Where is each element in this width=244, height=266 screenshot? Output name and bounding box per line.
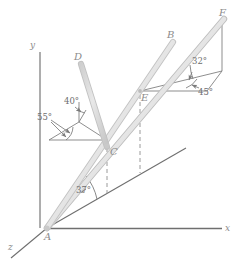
- angle-label-40: 40°: [64, 97, 79, 106]
- point-label-D: D: [74, 52, 82, 62]
- point-label-B: B: [167, 30, 174, 40]
- point-label-E: E: [141, 93, 148, 103]
- projection-box-E: [140, 20, 222, 91]
- frame-diagram-figure: A B C D E F y x z 37° 40° 55° 32° 45°: [0, 0, 244, 266]
- point-label-C: C: [110, 147, 118, 157]
- point-label-A: A: [44, 232, 51, 242]
- angle-label-32: 32°: [192, 57, 207, 66]
- incline-line-from-A: [47, 148, 186, 228]
- angle-label-45: 45°: [198, 88, 213, 97]
- angle-label-55: 55°: [37, 113, 52, 122]
- z-axis-label: z: [8, 243, 13, 252]
- point-label-F: F: [219, 8, 226, 18]
- member-AB: [47, 42, 173, 228]
- x-axis-label: x: [225, 224, 230, 233]
- member-CD: [81, 64, 107, 147]
- diagram-canvas: [0, 0, 244, 266]
- angle-label-37: 37°: [76, 186, 91, 195]
- z-axis-line: [11, 228, 47, 258]
- y-axis-label: y: [30, 41, 35, 50]
